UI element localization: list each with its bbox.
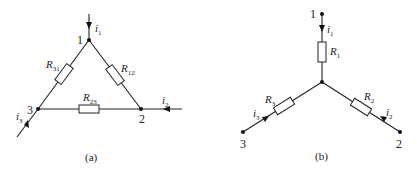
- current-label-i3: i3: [253, 107, 260, 122]
- node-label-3: 3: [27, 103, 33, 117]
- resistor-label-r3: R3: [264, 93, 276, 108]
- caption-b: (b): [315, 150, 328, 163]
- current-label-i3: i3: [16, 110, 23, 125]
- wye-network: i1 R1 R3 i3 R2 i2 1 3 2 (b): [240, 7, 402, 163]
- node-label-1: 1: [310, 7, 316, 21]
- resistor-label-r2: R2: [363, 90, 375, 105]
- resistor-label-r1: R1: [329, 45, 341, 60]
- node-label-2: 2: [139, 112, 145, 126]
- node-2: [398, 130, 402, 134]
- delta-network: i1 R31 R12 R23 i2 i3 1 3 2 (a): [16, 14, 182, 164]
- node-3: [241, 130, 245, 134]
- current-label-i2: i2: [386, 106, 393, 121]
- resistor-r1: [318, 42, 326, 62]
- resistor-label-r31: R31: [45, 58, 60, 73]
- current-label-i1: i1: [95, 22, 102, 37]
- current-arrow-i1: [319, 25, 325, 32]
- node-center: [320, 80, 324, 84]
- resistor-label-r23: R23: [82, 91, 97, 106]
- node-label-1: 1: [77, 33, 83, 47]
- current-arrow-i1: [86, 22, 92, 29]
- circuit-figure: i1 R31 R12 R23 i2 i3 1 3 2 (a) i1: [0, 0, 417, 174]
- resistor-label-r12: R12: [120, 62, 135, 77]
- node-2: [139, 107, 143, 111]
- node-label-2: 2: [396, 137, 402, 151]
- node-1: [87, 38, 91, 42]
- resistor-r3: [273, 97, 294, 114]
- resistor-r23: [79, 105, 99, 113]
- node-3: [36, 107, 40, 111]
- caption-a: (a): [85, 151, 98, 164]
- current-label-i1: i1: [327, 23, 334, 38]
- node-1: [320, 12, 324, 16]
- current-label-i2: i2: [162, 94, 169, 109]
- node-label-3: 3: [240, 137, 246, 151]
